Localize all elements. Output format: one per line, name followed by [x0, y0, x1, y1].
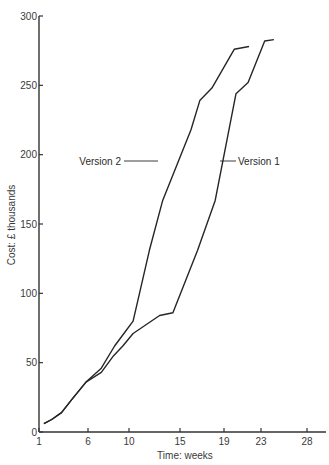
x-tick-label: 15 — [174, 436, 186, 447]
y-tick-label: 300 — [20, 11, 37, 22]
y-axis: 050100150200250300 — [20, 11, 43, 438]
x-tick-label: 6 — [85, 436, 91, 447]
x-tick-label: 23 — [255, 436, 267, 447]
cost-vs-time-chart: 050100150200250300 161015192328 Cost: £ … — [0, 0, 329, 465]
series-line-version-2 — [44, 47, 249, 424]
series-label-version-2: Version 2 — [79, 156, 121, 167]
series-lines — [44, 40, 274, 424]
y-tick-label: 150 — [20, 219, 37, 230]
x-axis-title: Time: weeks — [157, 450, 213, 461]
x-tick-label: 19 — [218, 436, 230, 447]
y-tick-label: 250 — [20, 80, 37, 91]
x-axis: 161015192328 — [36, 428, 326, 447]
y-tick-label: 200 — [20, 149, 37, 160]
y-axis-title: Cost: £ thousands — [6, 185, 17, 266]
series-label-version-1: Version 1 — [238, 156, 280, 167]
x-tick-label: 1 — [36, 436, 42, 447]
x-tick-label: 10 — [123, 436, 135, 447]
x-tick-label: 28 — [301, 436, 313, 447]
series-line-version-1 — [44, 40, 274, 424]
y-tick-label: 100 — [20, 288, 37, 299]
y-tick-label: 50 — [26, 357, 38, 368]
